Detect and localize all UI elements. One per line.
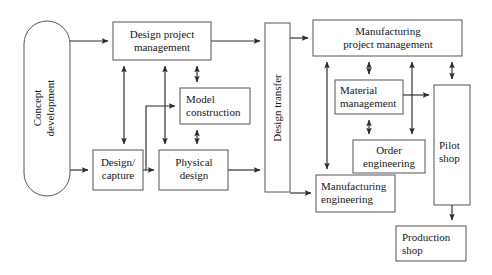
flowchart-canvas: Concept development Design project manag…: [0, 0, 492, 275]
node-design-project-management[interactable]: Design project management: [113, 22, 211, 60]
manufacturing-project-management-label-line-2: project management: [343, 38, 433, 50]
pilot-shop-label-line-1: Pilot: [439, 139, 460, 151]
material-management-label-line-1: Material: [340, 84, 377, 96]
manufacturing-engineering-label-line-2: engineering: [321, 193, 373, 205]
node-concept-development[interactable]: Concept development: [24, 21, 70, 196]
node-model-construction[interactable]: Model construction: [180, 88, 250, 124]
node-manufacturing-engineering[interactable]: Manufacturing engineering: [316, 175, 395, 212]
order-engineering-label-line-2: engineering: [363, 157, 415, 169]
order-engineering-label-line-1: Order: [376, 144, 402, 156]
pilot-shop-label-line-2: shop: [439, 152, 460, 164]
design-project-management-label-line-2: management: [134, 41, 190, 53]
node-pilot-shop[interactable]: Pilot shop: [434, 85, 470, 205]
production-shop-label-line-2: shop: [402, 244, 423, 256]
node-production-shop[interactable]: Production shop: [396, 226, 466, 261]
concept-development-label-line-2: development: [44, 80, 56, 137]
node-material-management[interactable]: Material management: [335, 80, 403, 114]
design-capture-label-line-1: Design/: [101, 156, 136, 168]
manufacturing-engineering-label-line-1: Manufacturing: [321, 180, 387, 192]
node-layer: Concept development Design project manag…: [24, 20, 470, 261]
material-management-label-line-2: management: [340, 97, 396, 109]
node-design-transfer[interactable]: Design transfer: [265, 23, 290, 192]
design-project-management-label-line-1: Design project: [130, 28, 194, 40]
physical-design-label-line-1: Physical: [175, 156, 212, 168]
physical-design-label-line-2: design: [180, 169, 209, 181]
concept-development-label-line-1: Concept: [31, 90, 43, 127]
design-transfer-label: Design transfer: [271, 74, 283, 142]
model-construction-label-line-2: construction: [186, 106, 241, 118]
node-order-engineering[interactable]: Order engineering: [353, 140, 425, 173]
design-capture-label-line-2: capture: [102, 169, 134, 181]
production-shop-label-line-1: Production: [402, 231, 451, 243]
model-construction-label-line-1: Model: [186, 93, 215, 105]
flowchart-diagram: Concept development Design project manag…: [0, 0, 492, 275]
node-manufacturing-project-management[interactable]: Manufacturing project management: [313, 20, 462, 56]
node-design-capture[interactable]: Design/ capture: [93, 150, 143, 190]
node-physical-design[interactable]: Physical design: [159, 150, 228, 190]
manufacturing-project-management-label-line-1: Manufacturing: [355, 25, 421, 37]
